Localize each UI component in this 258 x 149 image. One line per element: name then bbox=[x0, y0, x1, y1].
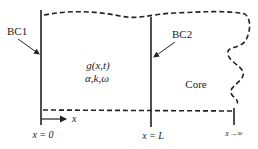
bottom-boundary bbox=[43, 110, 233, 111]
bc1-arrow bbox=[18, 39, 39, 54]
bc2-arrow bbox=[154, 42, 175, 57]
xL-label: x = L bbox=[141, 130, 164, 141]
bc1-label: BC1 bbox=[7, 25, 27, 37]
bc2-label: BC2 bbox=[172, 28, 192, 40]
x0-label: x = 0 bbox=[31, 129, 53, 140]
xinf-label: x→∞ bbox=[224, 129, 243, 138]
top-boundary bbox=[44, 12, 250, 106]
domain-diagram: BC1 BC2 g(x,t) α,k,ω Core x x = 0 x = L … bbox=[0, 0, 258, 149]
params-label: α,k,ω bbox=[85, 72, 109, 84]
function-label: g(x,t) bbox=[86, 59, 110, 72]
core-label: Core bbox=[185, 78, 207, 90]
axis-label: x bbox=[71, 113, 77, 124]
